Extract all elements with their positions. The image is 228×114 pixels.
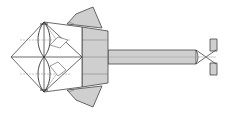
diagram-canvas: [0, 0, 228, 114]
tail: [196, 39, 217, 75]
upper-flap: [67, 7, 102, 28]
origami-diagram: [0, 0, 228, 114]
lower-flap: [67, 86, 102, 107]
